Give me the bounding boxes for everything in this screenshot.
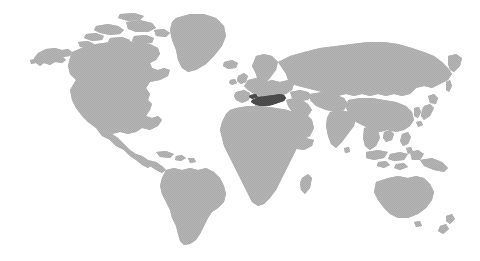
world-map-figure: World map with Turkey highlighted xyxy=(0,0,480,261)
world-map-graphic: Turkey xyxy=(0,0,480,261)
